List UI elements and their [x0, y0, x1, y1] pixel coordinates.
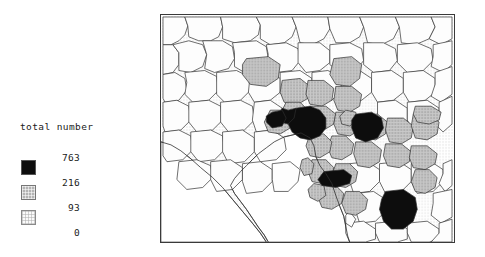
map-frame [160, 14, 455, 243]
legend-swatch-mid-fill [22, 186, 35, 199]
legend-title: total number [20, 121, 93, 132]
map-legend: total number 763 216 93 0 [0, 0, 155, 257]
legend-break-value-0: 0 [44, 227, 80, 238]
map-svg [161, 15, 454, 242]
legend-break-value-93: 93 [44, 202, 80, 213]
legend-swatch-low-fill [22, 211, 35, 224]
legend-swatch-high-fill [22, 161, 35, 174]
region-low-se-8 [431, 189, 452, 223]
legend-swatch-high [21, 160, 36, 175]
legend-swatch-mid [21, 185, 36, 200]
region-low-nw-2 [185, 17, 223, 41]
choropleth-map-panel [160, 14, 455, 243]
legend-break-value-763: 763 [44, 152, 80, 163]
legend-break-value-216: 216 [44, 177, 80, 188]
legend-swatch-low [21, 210, 36, 225]
